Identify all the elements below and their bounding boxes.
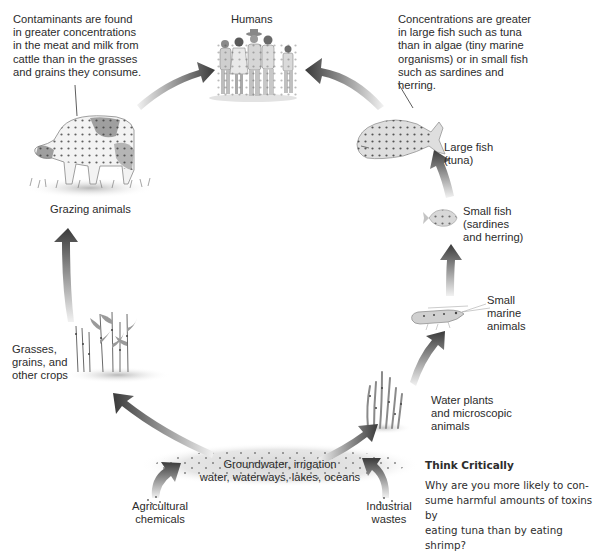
cattle-callout-pointer <box>75 85 77 116</box>
arrow-water-to-crops <box>113 393 214 458</box>
think-critically-question: Why are you more likely to con- sume har… <box>425 478 593 553</box>
large-fish-illustration <box>357 120 445 159</box>
cattle-callout-text: Contaminants are found in greater concen… <box>13 13 141 79</box>
humans-illustration <box>209 29 297 102</box>
arrow-grazing-to-humans <box>137 62 215 110</box>
label-water: Groundwater, irrigation water, waterways… <box>186 458 374 484</box>
label-large-fish: Large fish (tuna) <box>444 141 493 167</box>
label-agricultural-chemicals: Agricultural chemicals <box>122 500 198 526</box>
label-crops: Grasses, grains, and other crops <box>12 343 68 383</box>
label-small-fish: Small fish (sardines and herring) <box>463 205 523 245</box>
crops-illustration <box>66 312 170 383</box>
arrow-largefish-to-humans <box>305 58 384 110</box>
cow-illustration <box>26 116 154 198</box>
label-humans: Humans <box>231 13 273 26</box>
arrow-waterplants-to-smallmarine <box>410 331 445 386</box>
label-small-marine-animals: Small marine animals <box>487 294 526 334</box>
label-grazing-animals: Grazing animals <box>50 203 131 216</box>
label-water-plants: Water plants and microscopic animals <box>431 394 512 434</box>
fish-callout-text: Concentrations are greater in large fish… <box>398 13 531 92</box>
think-critically-title: Think Critically <box>425 459 514 471</box>
label-industrial-wastes: Industrial wastes <box>358 500 420 526</box>
arrow-smallmarine-to-smallfish <box>440 244 462 296</box>
water-plants-illustration <box>356 372 412 434</box>
shrimp-illustration <box>412 304 490 330</box>
small-fish-illustration <box>423 210 457 227</box>
arrow-crops-to-grazing <box>54 228 78 322</box>
